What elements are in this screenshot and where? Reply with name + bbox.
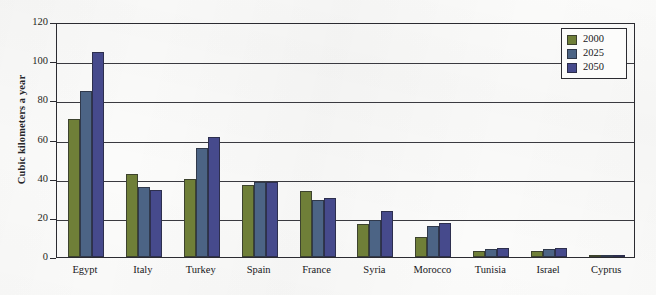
- y-axis-tick-label: 60: [14, 135, 48, 146]
- legend-swatch-icon: [567, 49, 577, 59]
- bar: [150, 190, 162, 257]
- legend-item[interactable]: 2025: [567, 47, 621, 60]
- bar: [601, 255, 613, 257]
- y-axis-tick-label: 40: [14, 174, 48, 185]
- y-axis-tick-label: 20: [14, 213, 48, 224]
- x-axis-category-label: Cyprus: [571, 264, 641, 275]
- bar-series-container: [57, 24, 634, 257]
- bar: [68, 119, 80, 257]
- bar: [369, 220, 381, 257]
- bar-group: [357, 24, 393, 257]
- y-axis-tick-label: 120: [14, 17, 48, 28]
- bar: [473, 251, 485, 257]
- bar: [427, 226, 439, 257]
- bar: [138, 187, 150, 258]
- bar: [254, 182, 266, 257]
- y-axis-tick-label: 0: [14, 252, 48, 263]
- bar: [266, 182, 278, 257]
- y-axis-tick-label: 100: [14, 56, 48, 67]
- bar: [589, 255, 601, 257]
- bar: [531, 251, 543, 257]
- bar: [184, 179, 196, 257]
- y-axis-title-text: Cubic kilometers a year: [17, 74, 28, 183]
- bar-group: [473, 24, 509, 257]
- legend-swatch-icon: [567, 35, 577, 45]
- bar: [126, 174, 138, 257]
- bar: [381, 211, 393, 257]
- legend-label: 2000: [583, 34, 604, 45]
- plot-area: [56, 23, 635, 258]
- bar: [415, 237, 427, 257]
- bar: [613, 255, 625, 257]
- legend-label: 2050: [583, 62, 604, 73]
- y-axis-tick-mark: [50, 258, 56, 259]
- bar: [312, 200, 324, 257]
- bar: [543, 249, 555, 257]
- bar: [485, 249, 497, 257]
- bar: [92, 52, 104, 257]
- bar-group: [126, 24, 162, 257]
- bar: [196, 148, 208, 257]
- bar: [497, 248, 509, 257]
- bar: [324, 198, 336, 257]
- legend-item[interactable]: 2000: [567, 33, 621, 46]
- legend-label: 2025: [583, 48, 604, 59]
- bar: [300, 191, 312, 257]
- bar: [439, 223, 451, 257]
- bar-group: [184, 24, 220, 257]
- chart-figure: Cubic kilometers a year 020406080100120 …: [0, 0, 656, 295]
- legend-item[interactable]: 2050: [567, 61, 621, 74]
- bar-group: [300, 24, 336, 257]
- bar: [208, 137, 220, 257]
- legend-swatch-icon: [567, 63, 577, 73]
- bar-group: [68, 24, 104, 257]
- bar: [357, 224, 369, 257]
- y-axis-tick-label: 80: [14, 95, 48, 106]
- bar-group: [415, 24, 451, 257]
- bar: [80, 91, 92, 257]
- bar: [242, 185, 254, 257]
- chart-legend: 200020252050: [561, 28, 627, 79]
- bar-group: [242, 24, 278, 257]
- bar: [555, 248, 567, 257]
